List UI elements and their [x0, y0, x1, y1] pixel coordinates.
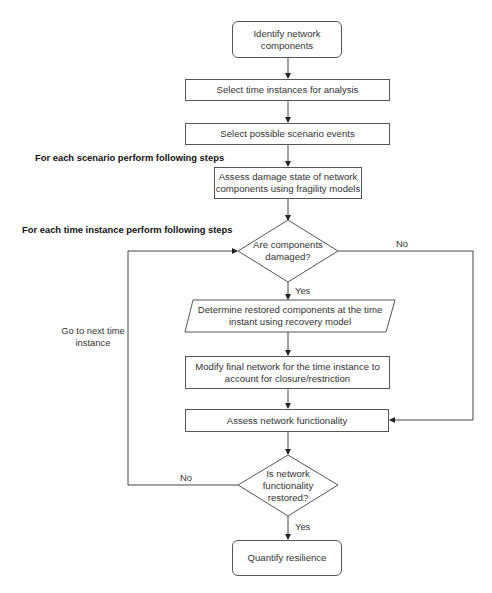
scenario-loop-title: For each scenario perform following step…: [35, 152, 224, 163]
step-select-time-instances-label: Select time instances for analysis: [217, 84, 359, 96]
restore-components-text: Determine restored components at the tim…: [190, 301, 390, 331]
step-assess-damage-line2: components using fragility models: [216, 183, 361, 195]
step-select-scenario-events: Select possible scenario events: [185, 123, 390, 145]
decision1-line1: Are components: [253, 239, 323, 251]
step-select-scenario-events-label: Select possible scenario events: [220, 128, 354, 140]
step-assess-damage-line1: Assess damage state of network: [219, 171, 358, 183]
decision2-line3: restored?: [268, 492, 309, 504]
decision2-line2: functionality: [263, 480, 314, 492]
step-assess-damage-state: Assess damage state of network component…: [214, 167, 362, 199]
step-modify-line2: account for closure/restriction: [225, 373, 350, 385]
arrow-decision1-no: [338, 251, 473, 420]
decision2-no-label: No: [180, 472, 192, 483]
restore-line1: Determine restored components at the tim…: [198, 304, 383, 316]
decision1-yes-label: Yes: [295, 285, 310, 296]
start-node-line2: components: [261, 40, 313, 52]
loop-label-line1: Go to next time: [58, 325, 128, 337]
loop-next-time-label: Go to next time instance: [58, 325, 128, 349]
decision2-yes-label: Yes: [295, 521, 310, 532]
time-loop-title: For each time instance perform following…: [22, 224, 232, 235]
step-modify-line1: Modify final network for the time instan…: [195, 361, 380, 373]
decision2-line1: Is network: [266, 468, 310, 480]
restore-line2: instant using recovery model: [229, 316, 351, 328]
step-modify-final-network: Modify final network for the time instan…: [185, 356, 390, 389]
decision1-no-label: No: [396, 238, 408, 249]
step-assess-network-functionality: Assess network functionality: [185, 409, 389, 432]
decision2-text: Is network functionality restored?: [248, 467, 328, 505]
decision1-text: Are components damaged?: [243, 238, 333, 264]
end-node-quantify-resilience: Quantify resilience: [232, 540, 342, 576]
start-node-line1: Identify network: [253, 28, 320, 40]
decision1-line2: damaged?: [265, 251, 310, 263]
step-assess-functionality-label: Assess network functionality: [227, 415, 348, 427]
step-select-time-instances: Select time instances for analysis: [185, 79, 390, 101]
end-node-label: Quantify resilience: [248, 552, 327, 564]
start-node-identify-components: Identify network components: [232, 21, 342, 58]
loop-label-line2: instance: [58, 337, 128, 349]
